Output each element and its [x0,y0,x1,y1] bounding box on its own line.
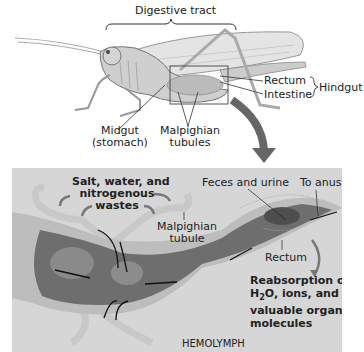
label-reabs-line3: valuable organic [250,304,342,317]
label-midgut-line2: (stomach) [90,137,150,149]
label-to-anus: To anus [300,177,342,189]
detail-panel: Salt, water, and nitrogenous wastes Fece… [12,168,342,352]
label-wastes: Salt, water, and nitrogenous wastes [72,176,162,212]
label-intestine: Intestine [264,89,312,101]
label-reabs-line4: molecules [250,317,342,330]
label-reabsorption: Reabsorption of H2O, ions, and valuable … [250,274,342,330]
label-wastes-line3: wastes [72,200,162,212]
label-malpighian-tubules: Malpighian tubules [160,125,220,149]
label-rectum-detail: Rectum [265,252,307,264]
label-hindgut: Hindgut [319,82,363,94]
label-midgut: Midgut (stomach) [90,125,150,149]
label-feces-urine: Feces and urine [202,177,289,189]
label-tubule-line2: tubule [157,233,217,245]
label-rectum-top: Rectum [264,75,306,87]
label-digestive-tract: Digestive tract [135,5,216,17]
label-reabs-line2: H2O, ions, and [250,287,342,304]
label-malpighian-line2: tubules [160,137,220,149]
label-hemolymph: HEMOLYMPH [182,338,245,350]
label-malpighian-tubule: Malpighian tubule [157,221,217,245]
label-reabs-line1: Reabsorption of [250,274,342,287]
